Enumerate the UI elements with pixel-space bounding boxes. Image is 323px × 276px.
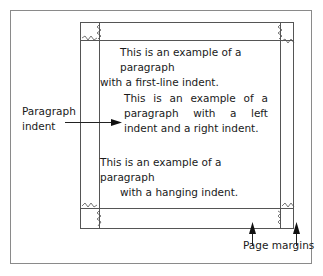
paragraph-hanging-indent: This is an example of a paragraph with a… bbox=[100, 155, 278, 200]
page-margins-label: Page margins bbox=[243, 238, 314, 253]
paragraph-line: with a hanging indent. bbox=[100, 185, 278, 200]
paragraph-indent-diagram: This is an example of a paragraph with a… bbox=[0, 0, 323, 276]
arrow-up-icon bbox=[293, 222, 300, 234]
paragraph-line: This is an example of a paragraph bbox=[100, 45, 278, 75]
paragraph-line: with a first-line indent. bbox=[100, 75, 278, 90]
paragraph-line: This is an example of a paragraph bbox=[100, 155, 278, 185]
diagram-lines bbox=[0, 0, 323, 276]
paragraph-first-line-indent: This is an example of a paragraph with a… bbox=[100, 45, 278, 90]
paragraph-indent-label: Paragraph indent bbox=[22, 104, 80, 134]
arrow-right-icon bbox=[111, 119, 122, 126]
paragraph-left-right-indent: This is an example of a paragraph with a… bbox=[124, 91, 268, 136]
